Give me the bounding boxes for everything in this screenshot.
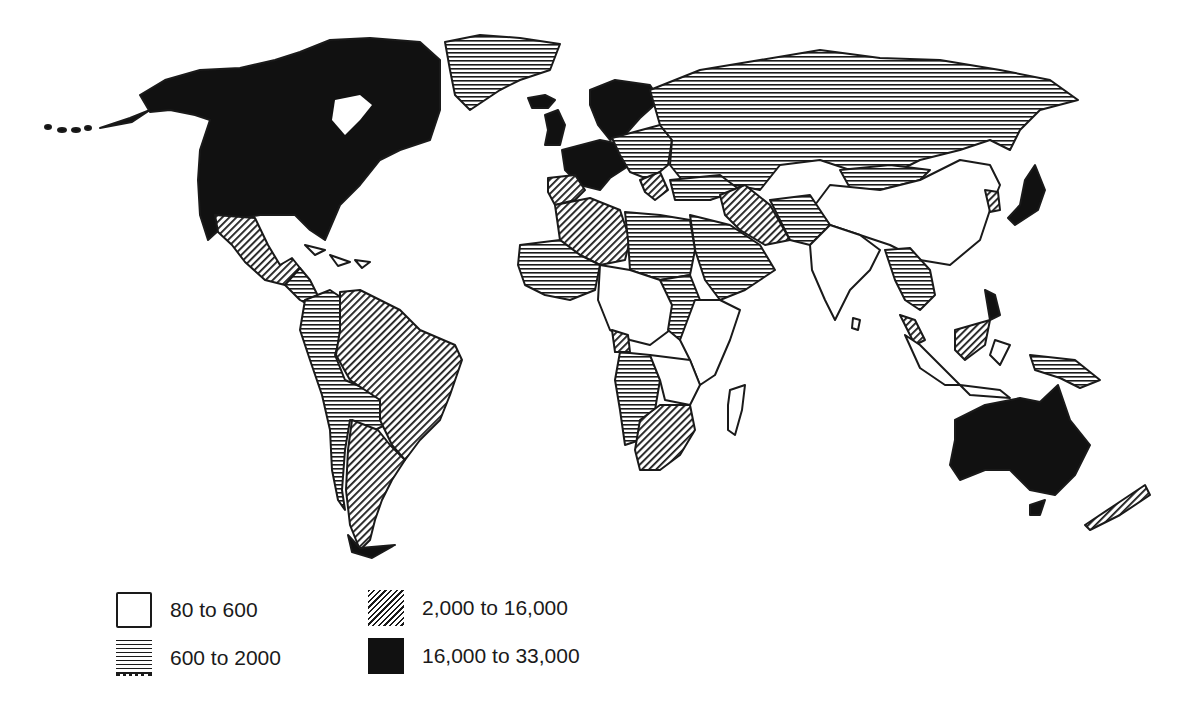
region-tasmania [1030,500,1045,515]
map-legend: 80 to 600 600 to 2000 2,000 to 16,000 16… [116,586,676,696]
region-new-guinea [1030,355,1100,388]
region-philippines [985,290,1000,320]
region-sumatra [905,335,960,385]
legend-item-16000-33000: 16,000 to 33,000 [368,638,580,674]
legend-label: 2,000 to 16,000 [422,596,568,620]
region-mexico [215,215,300,285]
region-iceland [528,95,555,108]
region-uk [545,110,565,145]
legend-item-80-600: 80 to 600 [116,592,258,628]
legend-item-2000-16000: 2,000 to 16,000 [368,590,568,626]
region-borneo [955,320,990,360]
region-india [810,225,880,320]
region-new-zealand [1085,485,1150,530]
legend-label: 16,000 to 33,000 [422,644,580,668]
region-madagascar [728,385,745,435]
aleutian-islands [45,110,150,132]
legend-swatch-black [368,638,404,674]
legend-item-600-2000: 600 to 2000 [116,640,281,676]
region-australia [950,385,1090,495]
region-sri-lanka [852,318,860,330]
legend-swatch-white [116,592,152,628]
region-sulawesi [990,340,1010,365]
region-japan [1008,165,1045,225]
legend-swatch-horizontal-hatch [116,640,152,676]
legend-label: 80 to 600 [170,598,258,622]
region-java [960,385,1010,398]
region-us-canada [140,38,440,240]
legend-swatch-diagonal-hatch [368,590,404,626]
legend-label: 600 to 2000 [170,646,281,670]
world-map [0,0,1202,580]
caribbean-islands [305,245,370,268]
region-libya-egypt [625,212,695,280]
